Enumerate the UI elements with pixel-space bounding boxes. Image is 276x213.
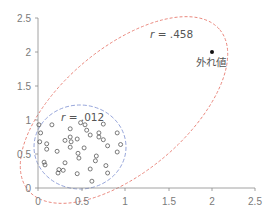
cluster-points <box>37 121 123 184</box>
data-point <box>85 128 89 132</box>
all-data-ellipse <box>0 0 260 213</box>
x-tick-label: 2.5 <box>248 196 262 207</box>
data-point <box>68 127 72 131</box>
x-tick-label: 2 <box>209 196 215 207</box>
data-point <box>106 144 110 148</box>
data-point <box>106 171 110 175</box>
data-point <box>50 123 54 127</box>
data-point <box>83 123 87 127</box>
data-point <box>43 163 47 167</box>
y-tick-label: 1 <box>25 115 31 126</box>
y-tick-label: 0.5 <box>17 149 31 160</box>
x-tick-label: 1.5 <box>162 196 176 207</box>
r-value: = .458 <box>154 28 193 40</box>
cluster-correlation-label: r = .012 <box>61 111 104 123</box>
outlier-label: 外れ値 <box>196 56 227 68</box>
data-point <box>90 179 94 183</box>
data-point <box>97 135 101 139</box>
y-tick-label: 2 <box>25 47 31 58</box>
data-point <box>63 138 67 142</box>
data-point <box>69 140 73 144</box>
data-point <box>75 172 79 176</box>
y-tick-label: 2.5 <box>17 13 31 24</box>
data-point <box>82 146 86 150</box>
data-point <box>115 150 119 154</box>
data-point <box>88 167 92 171</box>
data-point <box>88 133 92 137</box>
overall-correlation-label: r = .458 <box>150 28 193 40</box>
data-point <box>76 151 80 155</box>
y-tick-label: 0 <box>25 183 31 194</box>
data-point <box>61 168 65 172</box>
data-point <box>55 149 59 153</box>
outlier-marker <box>210 50 214 54</box>
x-tick-label: 0.5 <box>75 196 89 207</box>
data-point <box>77 156 81 160</box>
x-tick-label: 0 <box>35 196 41 207</box>
data-point <box>68 135 72 139</box>
scatter-chart: 2.5 2 1.5 1 0.5 0 0 0.5 1 1.5 2 2.5 r = … <box>0 0 276 213</box>
data-point <box>115 131 119 135</box>
x-tick-label: 1 <box>122 196 128 207</box>
data-point <box>63 161 67 165</box>
data-point <box>42 160 46 164</box>
data-point <box>45 142 49 146</box>
data-point <box>94 154 98 158</box>
data-point <box>45 147 49 151</box>
data-point <box>101 138 105 142</box>
y-tick-label: 1.5 <box>17 81 31 92</box>
data-point <box>97 131 101 135</box>
data-point <box>37 123 41 127</box>
data-point <box>68 145 72 149</box>
data-point <box>104 164 108 168</box>
data-point <box>119 143 123 147</box>
data-point <box>39 131 43 135</box>
data-point <box>93 159 97 163</box>
outlier-point <box>210 50 214 54</box>
data-point <box>75 137 79 141</box>
r-value: = .012 <box>65 111 104 123</box>
